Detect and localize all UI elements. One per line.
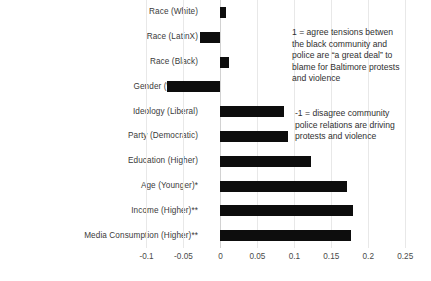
bar	[220, 181, 346, 192]
x-tick-label: -0.05	[174, 252, 193, 261]
x-axis: -0.1-0.0500.050.10.150.20.25	[128, 248, 420, 268]
bar	[220, 131, 288, 142]
gridline	[146, 0, 147, 248]
annotation-disagree-text: -1 = disagree community police relations…	[295, 108, 431, 143]
gridline	[183, 0, 184, 248]
bar	[220, 106, 284, 117]
bar	[220, 205, 352, 216]
x-tick-label: 0.05	[249, 252, 265, 261]
bar-chart: Race (White)Race (LatinX)Race (Black)Gen…	[0, 0, 431, 281]
annotation-agree-text: 1 = agree tensions betwen the black comm…	[292, 27, 431, 85]
bar	[200, 32, 221, 43]
bar	[167, 81, 220, 92]
x-tick-label: 0.1	[289, 252, 300, 261]
x-tick-label: -0.1	[139, 252, 153, 261]
bar	[220, 230, 350, 241]
bar	[220, 57, 229, 68]
x-tick-label: 0	[218, 252, 223, 261]
x-tick-label: 0.25	[397, 252, 413, 261]
bar	[220, 7, 226, 18]
x-tick-label: 0.15	[323, 252, 339, 261]
x-tick-label: 0.2	[363, 252, 374, 261]
bar	[220, 156, 311, 167]
